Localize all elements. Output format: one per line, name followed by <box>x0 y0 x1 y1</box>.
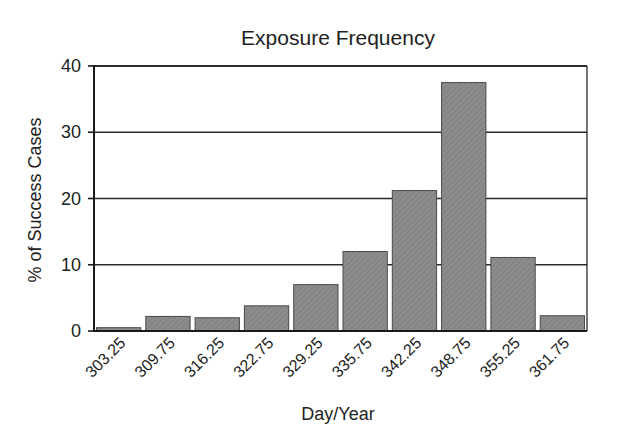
bar <box>540 316 584 331</box>
bar <box>343 252 387 332</box>
bar <box>146 316 190 331</box>
bars <box>97 83 585 331</box>
x-tick-label: 335.75 <box>329 334 376 381</box>
plot-area: 010203040 303.25309.75316.25322.75329.25… <box>0 0 622 447</box>
y-tick-label: 10 <box>61 255 81 275</box>
bar <box>392 191 436 331</box>
x-tick-label: 309.75 <box>131 334 178 381</box>
chart-container: Exposure Frequency % of Success Cases Da… <box>0 0 622 447</box>
bar <box>244 306 288 331</box>
y-tick-label: 30 <box>61 122 81 142</box>
x-tick-label: 348.75 <box>427 334 474 381</box>
x-tick-label: 316.25 <box>181 334 228 381</box>
y-tick-labels: 010203040 <box>61 56 81 341</box>
x-tick-label: 322.75 <box>230 334 277 381</box>
x-tick-label: 355.25 <box>477 334 524 381</box>
y-tick-label: 40 <box>61 56 81 76</box>
gridlines <box>94 66 587 265</box>
bar <box>195 318 239 331</box>
x-tick-labels: 303.25309.75316.25322.75329.25335.75342.… <box>82 334 572 381</box>
bar <box>294 285 338 331</box>
x-tick-label: 329.25 <box>279 334 326 381</box>
x-tick-label: 303.25 <box>82 334 129 381</box>
y-tick-label: 0 <box>71 321 81 341</box>
bar <box>442 83 486 331</box>
y-tick-label: 20 <box>61 189 81 209</box>
bar <box>491 257 535 331</box>
x-tick-label: 361.75 <box>526 334 573 381</box>
x-tick-label: 342.25 <box>378 334 425 381</box>
